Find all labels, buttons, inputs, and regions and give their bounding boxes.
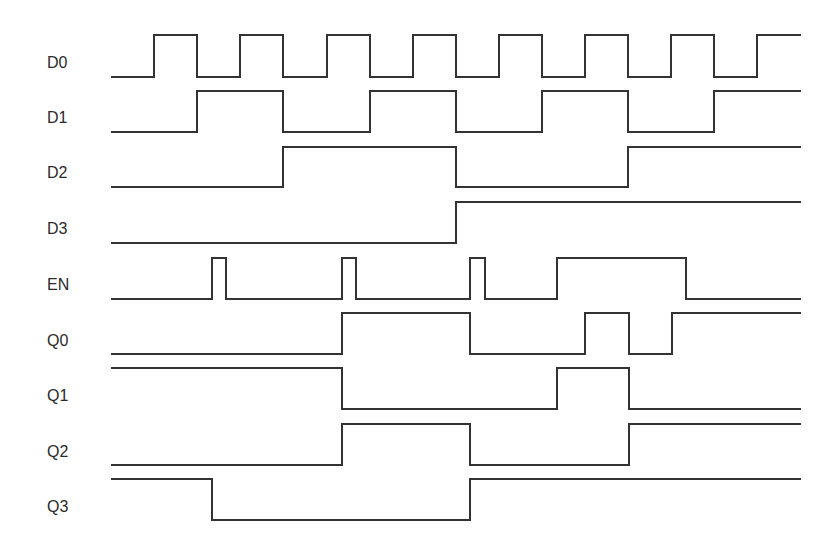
timing-diagram: D0D1D2D3ENQ0Q1Q2Q3 <box>0 0 834 549</box>
waveform-en <box>111 258 801 299</box>
signal-label-q1: Q1 <box>47 387 68 405</box>
waveform-d1 <box>111 91 801 132</box>
waveform-d0 <box>111 35 801 77</box>
signal-label-d2: D2 <box>47 164 67 182</box>
signal-label-d3: D3 <box>47 220 67 238</box>
signal-label-d0: D0 <box>47 54 67 72</box>
signal-label-q3: Q3 <box>47 498 68 516</box>
waveform-q2 <box>111 424 801 465</box>
waveform-q0 <box>111 313 801 354</box>
signal-label-q2: Q2 <box>47 443 68 461</box>
waveform-d2 <box>111 147 801 187</box>
signal-label-en: EN <box>47 276 69 294</box>
waveform-d3 <box>111 202 801 243</box>
waveform-q1 <box>111 368 801 409</box>
waveform-q3 <box>111 479 801 520</box>
signal-label-q0: Q0 <box>47 332 68 350</box>
waveforms <box>0 0 834 549</box>
signal-label-d1: D1 <box>47 109 67 127</box>
